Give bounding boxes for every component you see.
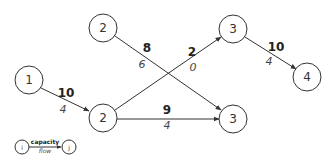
edge-3-top-to-4: 10 4	[245, 37, 296, 69]
flow-network-diagram: 10 4 8 6 2 0 9 4 10 4 1 2 2 3 3	[0, 0, 334, 166]
node-1: 1	[15, 66, 43, 94]
edge-flow: 4	[266, 55, 273, 68]
node-label: 3	[229, 112, 237, 126]
edge-capacity: 10	[58, 86, 75, 100]
node-2-top: 2	[89, 14, 117, 42]
node-label: 3	[229, 22, 237, 36]
edge-flow: 6	[139, 58, 146, 71]
edge-capacity: 8	[143, 41, 151, 55]
edge-capacity: 10	[268, 40, 285, 54]
node-label: 2	[99, 111, 107, 125]
node-4: 4	[293, 63, 321, 91]
edge-2-bottom-to-3-bottom: 9 4	[117, 103, 219, 132]
legend-capacity-label: capacity	[31, 138, 59, 146]
legend: i capacity flow j	[15, 138, 76, 154]
node-3-bottom: 3	[219, 105, 247, 133]
legend-to-label: j	[67, 144, 70, 152]
edge-flow: 4	[60, 103, 67, 116]
legend-node-i: i	[15, 140, 29, 154]
legend-node-j: j	[62, 140, 76, 154]
edge-flow: 0	[190, 61, 197, 74]
node-label: 1	[25, 73, 33, 87]
edge-flow: 4	[164, 119, 171, 132]
edge-capacity: 2	[188, 45, 196, 59]
node-2-bottom: 2	[89, 104, 117, 132]
edge-capacity: 9	[163, 103, 171, 117]
edge-1-to-2-bottom: 10 4	[41, 86, 89, 116]
node-3-top: 3	[219, 15, 247, 43]
legend-flow-label: flow	[39, 147, 52, 154]
node-label: 4	[303, 70, 311, 84]
node-label: 2	[99, 21, 107, 35]
